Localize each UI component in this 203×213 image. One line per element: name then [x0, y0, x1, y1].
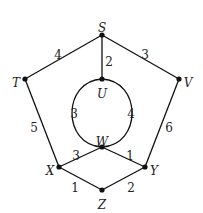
node-label-S: S [98, 21, 106, 35]
node-label-T: T [12, 76, 21, 90]
edge-weight-label: 2 [127, 181, 135, 195]
node-label-V: V [184, 76, 194, 90]
edge-weight-label: 4 [127, 107, 135, 121]
node-label-Z: Z [97, 198, 107, 212]
edge-Z-Y [102, 167, 145, 190]
edge-weight-label: 3 [72, 149, 80, 163]
node-V [176, 76, 181, 81]
edge-X-Z [59, 167, 102, 190]
edge-weight-label: 1 [126, 149, 134, 163]
node-Y [142, 164, 147, 169]
edge-weight-label: 4 [54, 48, 62, 62]
edge-weight-label: 1 [71, 181, 79, 195]
edge-W-X [59, 147, 102, 167]
node-label-X: X [45, 164, 55, 178]
edge-W-Y [102, 147, 145, 167]
edge-V-Y [145, 79, 179, 167]
edge-weight-label: 3 [70, 107, 78, 121]
node-Z [99, 187, 104, 192]
edge-S-T [25, 35, 102, 79]
edge-weight-label: 3 [141, 48, 149, 62]
edge-weight-label: 6 [165, 121, 173, 135]
node-U [99, 76, 104, 81]
edge-weight-label: 5 [30, 121, 38, 135]
node-X [56, 164, 61, 169]
node-T [22, 76, 27, 81]
node-label-Y: Y [150, 164, 159, 178]
node-label-U: U [97, 87, 108, 101]
edge-weight-label: 2 [105, 55, 113, 69]
weighted-graph-diagram: 43256343112STVUWXYZ [0, 0, 203, 213]
node-label-W: W [96, 135, 110, 149]
